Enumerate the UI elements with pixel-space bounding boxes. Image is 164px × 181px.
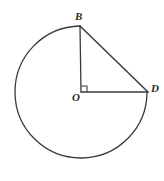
radius-OB-line (80, 26, 81, 92)
geometry-figure: B O D (0, 0, 164, 181)
geometry-canvas (0, 0, 164, 181)
right-angle-marker-icon (81, 86, 87, 92)
vertex-label-o: O (72, 92, 80, 103)
vertex-label-b: B (75, 11, 82, 22)
vertex-label-d: D (151, 83, 159, 94)
chord-BD-line (80, 26, 148, 92)
